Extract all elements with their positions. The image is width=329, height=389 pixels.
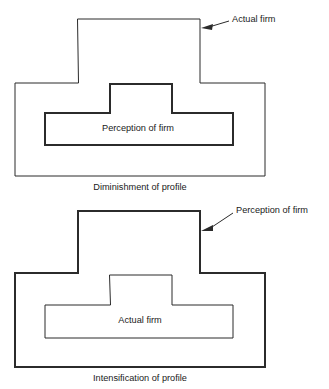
figure-diminishment-of-profile: Perception of firm Actual firm Diminishm… — [15, 14, 276, 192]
perception-of-firm-label: Perception of firm — [102, 123, 174, 133]
actual-firm-callout-label: Actual firm — [232, 14, 276, 24]
perception-of-firm-shape — [45, 84, 233, 145]
figure-caption-intensification: Intensification of profile — [93, 373, 187, 383]
perception-of-firm-arrow-icon — [201, 225, 213, 231]
actual-firm-arrow-icon — [201, 24, 213, 30]
figure-intensification-of-profile: Actual firm Perception of firm Intensifi… — [15, 205, 308, 383]
actual-firm-shape — [15, 19, 265, 176]
actual-firm-label: Actual firm — [118, 315, 162, 325]
actual-firm-shape — [45, 275, 233, 338]
profile-comparison-diagram: Perception of firm Actual firm Diminishm… — [0, 0, 329, 389]
perception-of-firm-callout-label: Perception of firm — [236, 205, 308, 215]
perception-of-firm-shape — [15, 211, 265, 367]
diagram-root: Perception of firm Actual firm Diminishm… — [0, 0, 329, 389]
figure-caption-diminishment: Diminishment of profile — [93, 182, 186, 192]
